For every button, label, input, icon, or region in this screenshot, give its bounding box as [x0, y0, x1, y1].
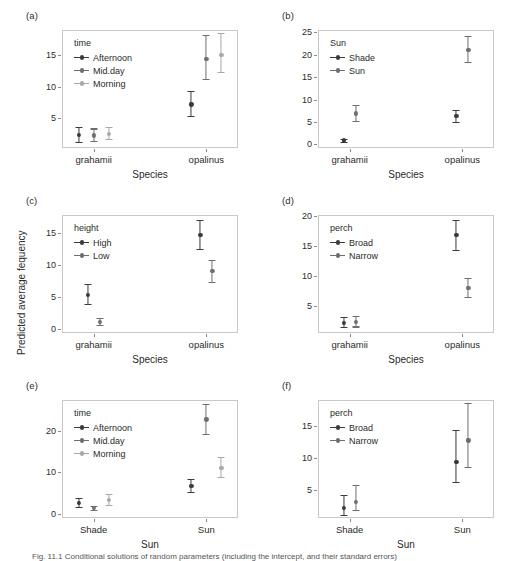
- x-tick-mark: [350, 149, 351, 152]
- y-tick-label: 15: [288, 241, 312, 251]
- x-axis-label: Sun: [141, 539, 159, 550]
- legend-item[interactable]: Narrow: [330, 249, 378, 262]
- error-bar-point: [338, 139, 350, 143]
- error-bar-point: [94, 318, 106, 324]
- error-bar-cap-bottom: [84, 304, 91, 305]
- error-bar-point: [450, 220, 462, 250]
- error-bar-cap-bottom: [465, 297, 472, 298]
- error-bar-cap-top: [75, 127, 82, 128]
- error-bar-cap-top: [218, 457, 225, 458]
- error-bar-cap-top: [453, 110, 460, 111]
- legend-item[interactable]: High: [74, 236, 112, 249]
- y-tick-mark: [58, 472, 61, 473]
- legend-marker-dot: [336, 425, 341, 430]
- x-axis-label: Species: [388, 169, 424, 180]
- y-tick-mark: [314, 306, 317, 307]
- data-point: [454, 233, 458, 237]
- y-tick-label: 0: [32, 324, 56, 334]
- data-point: [342, 506, 346, 510]
- data-point: [204, 417, 208, 421]
- error-bar-line: [221, 33, 222, 72]
- figure-caption: Fig. 11.1 Conditional solutions of rando…: [32, 551, 492, 561]
- error-bar-cap-bottom: [218, 72, 225, 73]
- figure-panel-grid: (a)51015grahamiiopalinusSpeciestimeAfter…: [0, 0, 513, 561]
- y-tick-mark: [58, 233, 61, 234]
- y-tick-mark: [314, 276, 317, 277]
- chart-panel-b: (b)0510152025grahamiiopalinusSpeciesSunS…: [256, 8, 512, 195]
- error-bar-point: [73, 127, 85, 142]
- error-bar-cap-top: [105, 494, 112, 495]
- x-tick-mark: [462, 149, 463, 152]
- x-tick-mark: [94, 149, 95, 152]
- legend-marker-dot: [336, 240, 341, 245]
- legend-item[interactable]: Low: [74, 249, 112, 262]
- error-bar-cap-bottom: [203, 434, 210, 435]
- error-bar-point: [215, 33, 227, 72]
- data-point: [219, 53, 223, 57]
- error-bar-cap-top: [75, 498, 82, 499]
- legend-marker-icon: [330, 238, 345, 247]
- x-axis-label: Species: [132, 169, 168, 180]
- data-point: [189, 102, 193, 106]
- legend-item[interactable]: Broad: [330, 236, 378, 249]
- x-tick-label: Shade: [80, 524, 107, 535]
- legend-item[interactable]: Afternoon: [74, 421, 132, 434]
- legend-item[interactable]: Afternoon: [74, 51, 132, 64]
- legend: perchBroadNarrow: [330, 408, 378, 447]
- y-tick-mark: [314, 100, 317, 101]
- legend-marker-dot: [80, 438, 85, 443]
- legend-item[interactable]: Broad: [330, 421, 378, 434]
- error-bar-cap-top: [188, 91, 195, 92]
- x-axis-label: Species: [132, 354, 168, 365]
- panel-tag-c: (c): [26, 195, 37, 206]
- error-bar-cap-bottom: [75, 507, 82, 508]
- x-tick-label: Sun: [454, 524, 471, 535]
- legend-item[interactable]: Sun: [330, 64, 375, 77]
- x-tick-label: opalinus: [445, 154, 480, 165]
- x-tick-label: Sun: [198, 524, 215, 535]
- y-tick-mark: [314, 246, 317, 247]
- legend-marker-dot: [80, 425, 85, 430]
- x-tick-mark: [350, 334, 351, 337]
- legend-item[interactable]: Mid.day: [74, 434, 132, 447]
- y-tick-mark: [314, 144, 317, 145]
- legend-label: Broad: [349, 238, 373, 248]
- data-point: [454, 459, 458, 463]
- legend-title: time: [74, 408, 132, 418]
- legend-label: Shade: [349, 53, 375, 63]
- error-bar-cap-top: [465, 36, 472, 37]
- error-bar-point: [450, 110, 462, 122]
- legend-marker-icon: [330, 251, 345, 260]
- legend-item[interactable]: Morning: [74, 447, 132, 460]
- legend: heightHighLow: [74, 223, 112, 262]
- error-bar-point: [350, 316, 362, 326]
- error-bar-cap-bottom: [105, 505, 112, 506]
- y-tick-label: 20: [288, 50, 312, 60]
- panel-tag-f: (f): [282, 380, 291, 391]
- error-bar-cap-top: [90, 128, 97, 129]
- error-bar-cap-bottom: [96, 325, 103, 326]
- y-tick-label: 5: [32, 292, 56, 302]
- error-bar-point: [350, 485, 362, 511]
- data-point: [204, 57, 208, 61]
- y-tick-label: 15: [32, 50, 56, 60]
- data-point: [77, 133, 81, 137]
- error-bar-cap-top: [105, 127, 112, 128]
- legend-item[interactable]: Shade: [330, 51, 375, 64]
- legend-marker-dot: [336, 438, 341, 443]
- x-tick-label: opalinus: [445, 339, 480, 350]
- error-bar-cap-bottom: [218, 477, 225, 478]
- y-tick-label: 25: [288, 27, 312, 37]
- legend-label: Sun: [349, 66, 365, 76]
- data-point: [107, 132, 111, 136]
- legend-marker-icon: [74, 449, 89, 458]
- legend-item[interactable]: Mid.day: [74, 64, 132, 77]
- legend-marker-icon: [74, 436, 89, 445]
- error-bar-cap-bottom: [453, 250, 460, 251]
- legend-item[interactable]: Morning: [74, 77, 132, 90]
- legend-marker-icon: [330, 66, 345, 75]
- error-bar-point: [350, 105, 362, 121]
- y-tick-mark: [58, 265, 61, 266]
- legend-item[interactable]: Narrow: [330, 434, 378, 447]
- x-tick-label: opalinus: [189, 339, 224, 350]
